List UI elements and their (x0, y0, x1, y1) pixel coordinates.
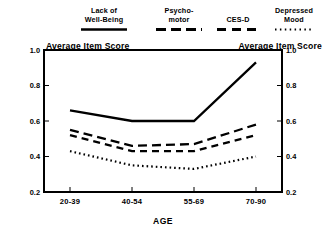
series-group (70, 62, 256, 169)
x-axis-labels: 20-3940-5455-6970-90 (60, 197, 266, 206)
y-tick-label-right: 0.8 (286, 81, 296, 90)
y-tick-label-right: 0.6 (286, 117, 296, 126)
x-tick-label: 20-39 (60, 197, 80, 206)
y-tick-label-right: 0.4 (286, 152, 297, 161)
x-tick-label: 55-69 (184, 197, 204, 206)
y-axis-labels-left: 0.20.40.60.81.0 (30, 46, 41, 197)
y-tick-label-left: 0.8 (30, 81, 40, 90)
y-tick-label-right: 1.0 (286, 46, 296, 55)
chart-figure: Lack of Well-Being Psycho- motor CES-D D… (0, 0, 334, 235)
y-tick-label-left: 0.6 (30, 117, 40, 126)
plot-area: 0.20.40.60.81.0 0.20.40.60.81.0 20-3940-… (0, 0, 334, 235)
y-tick-label-left: 0.2 (30, 188, 40, 197)
y-tick-label-right: 0.2 (286, 188, 296, 197)
y-tick-label-left: 0.4 (30, 152, 41, 161)
x-tick-label: 70-90 (246, 197, 266, 206)
x-axis-title: AGE (153, 216, 173, 226)
y-tick-label-left: 1.0 (30, 46, 40, 55)
chart-svg: 0.20.40.60.81.0 0.20.40.60.81.0 20-3940-… (0, 0, 334, 235)
series-line (70, 62, 256, 121)
y-axis-labels-right: 0.20.40.60.81.0 (286, 46, 297, 197)
series-line (70, 151, 256, 169)
x-tick-label: 40-54 (122, 197, 143, 206)
